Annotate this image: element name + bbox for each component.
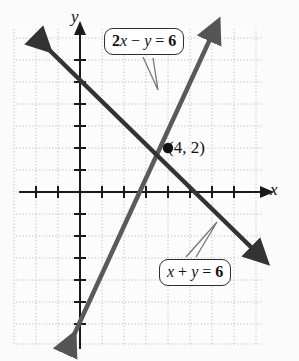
equation-1-equals: = (151, 32, 168, 49)
equation-1-coefficient: 2 (112, 32, 120, 49)
equation-1-operator: − (127, 32, 144, 49)
equation-label-1: 2x − y = 6 (104, 28, 184, 55)
equation-2-rhs: 6 (215, 263, 223, 280)
equation-label-2: x + y = 6 (159, 259, 231, 286)
equation-2-equals: = (198, 263, 215, 280)
equation-2-operator: + (174, 263, 191, 280)
x-axis-label: x (270, 180, 278, 200)
y-axis-label: y (71, 7, 79, 27)
intersection-point-label: (4, 2) (168, 138, 205, 158)
graph-figure: 2x − y = 6 x + y = 6 (4, 2) x y (0, 0, 299, 361)
equation-1-rhs: 6 (168, 32, 176, 49)
